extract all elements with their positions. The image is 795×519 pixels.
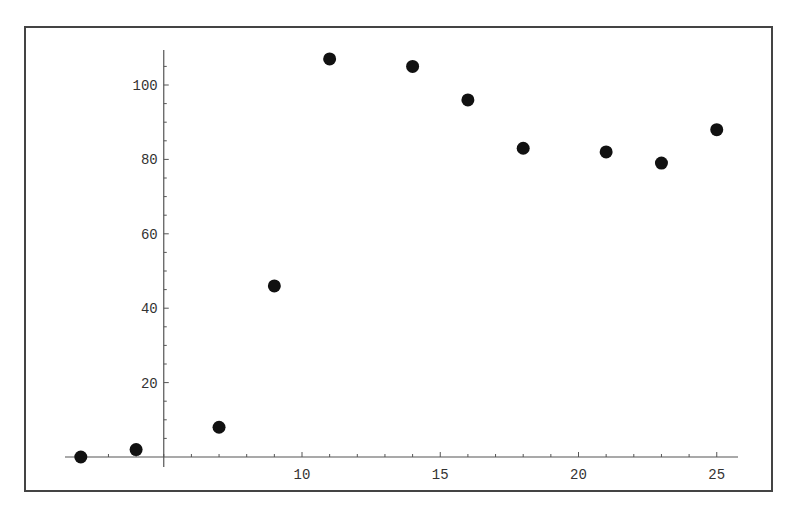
axes [65, 50, 738, 467]
y-tick-label: 40 [141, 301, 158, 317]
data-point [268, 279, 281, 292]
data-point [213, 421, 226, 434]
x-tick-label: 20 [570, 467, 587, 483]
data-point [655, 157, 668, 170]
scatter-chart: 10152025 20406080100 [0, 0, 795, 519]
x-tick-label: 10 [294, 467, 311, 483]
data-point [461, 93, 474, 106]
y-tick-label: 20 [141, 376, 158, 392]
data-point [710, 123, 723, 136]
data-point [323, 52, 336, 65]
data-point [74, 451, 87, 464]
x-tick-label: 25 [708, 467, 725, 483]
y-tick-label: 60 [141, 227, 158, 243]
data-points [74, 52, 723, 463]
data-point [130, 443, 143, 456]
data-point [406, 60, 419, 73]
data-point [517, 142, 530, 155]
x-tick-label: 15 [432, 467, 449, 483]
y-tick-label: 100 [133, 78, 158, 94]
plot-frame [25, 27, 772, 491]
data-point [600, 145, 613, 158]
y-tick-label: 80 [141, 152, 158, 168]
